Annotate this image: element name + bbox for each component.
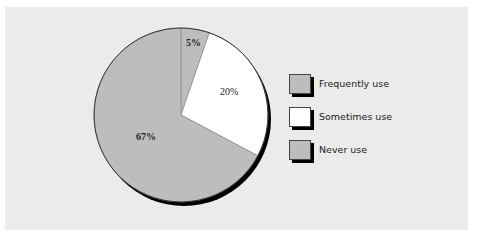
legend-label: Sometimes use <box>319 111 392 122</box>
pie-chart <box>0 0 477 236</box>
slice-label-never: 67% <box>136 131 156 142</box>
legend-swatch-icon <box>289 140 311 160</box>
slice-label-frequently: 5% <box>186 37 201 48</box>
legend-label: Never use <box>319 144 367 155</box>
legend-swatch-icon <box>289 74 311 94</box>
slice-label-sometimes: 20% <box>220 86 238 97</box>
legend-swatch-icon <box>289 107 311 127</box>
pie-slices <box>94 28 268 202</box>
legend-label: Frequently use <box>319 78 389 89</box>
